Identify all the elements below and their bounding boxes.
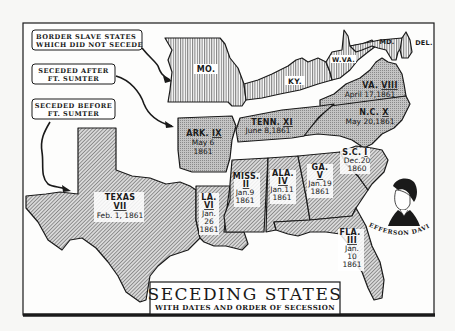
label-kentucky: KY. (288, 77, 302, 86)
date-virginia: April 17,1861 (345, 90, 396, 99)
label-delaware: DEL. (415, 39, 433, 47)
date-arkansas-1: May 6 (192, 138, 215, 147)
order-texas: VII (113, 202, 126, 211)
label-north-carolina: N.C. X (359, 108, 389, 117)
date-mississippi-2: 1861 (235, 196, 254, 205)
date-florida-3: 1861 (342, 260, 361, 269)
callout-border-line1: BORDER SLAVE STATES (36, 33, 136, 41)
date-south-carolina-2: 1860 (347, 164, 366, 173)
legend-callout-before: SECEDED BEFORE FT. SUMTER (32, 99, 115, 119)
label-arkansas: ARK. IX (186, 129, 222, 138)
date-louisiana-3: 1861 (199, 225, 218, 234)
callout-after-line1: SECEDED AFTER (38, 67, 109, 75)
label-virginia: VA. VIII (362, 81, 397, 90)
seceding-states-map: BORDER SLAVE STATES WHICH DID NOT SECEDE… (0, 0, 455, 331)
label-west-virginia: W.VA. (332, 56, 355, 64)
callout-border-line2: WHICH DID NOT SECEDE (35, 41, 143, 49)
label-maryland: MD. (379, 38, 394, 46)
date-arkansas-2: 1861 (193, 147, 212, 156)
date-north-carolina: May 20,1861 (346, 117, 395, 126)
date-alabama-2: 1861 (272, 193, 291, 202)
legend-callout-border: BORDER SLAVE STATES WHICH DID NOT SECEDE (32, 30, 143, 50)
callout-before-line1: SECEDED BEFORE (35, 102, 112, 110)
date-georgia-2: 1861 (310, 187, 329, 196)
callout-after-line2: FT. SUMTER (48, 75, 100, 83)
title-box: SECEDING STATES WITH DATES AND ORDER OF … (148, 282, 343, 314)
date-texas: Feb. 1, 1861 (97, 211, 144, 220)
callout-before-line2: FT. SUMTER (48, 110, 100, 118)
legend-callout-after: SECEDED AFTER FT. SUMTER (32, 64, 115, 84)
map-subtitle: WITH DATES AND ORDER OF SECESSION (154, 303, 335, 312)
label-texas: TEXAS (105, 193, 136, 202)
map-title: SECEDING STATES (148, 284, 343, 304)
date-tennessee: June 8,1861 (245, 126, 291, 135)
label-missouri: MO. (197, 65, 216, 74)
